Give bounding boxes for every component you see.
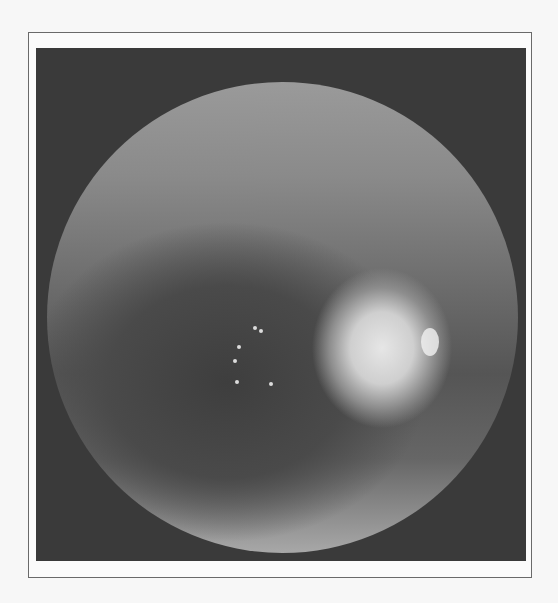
exudate-spot (259, 329, 263, 333)
exudate-spot (269, 382, 273, 386)
exudate-spot (233, 359, 237, 363)
fundus-photo (36, 48, 526, 561)
fundus-field (47, 82, 518, 553)
exudate-spot (237, 345, 241, 349)
exudate-spot (253, 326, 257, 330)
optic-disc-highlight (421, 328, 439, 356)
exudate-spot (235, 380, 239, 384)
